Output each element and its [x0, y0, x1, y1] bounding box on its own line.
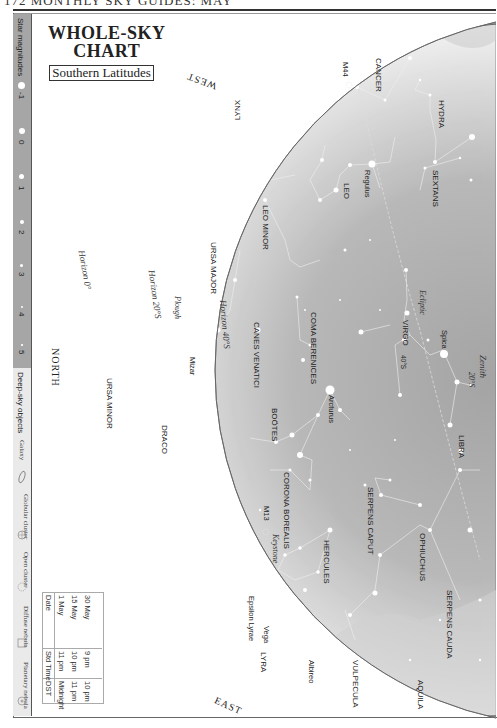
table-header-date: Date [44, 595, 53, 611]
magnitude-4-dot-icon [21, 306, 23, 308]
table-cell-dst: 11 pm [70, 681, 79, 701]
constellation-serpens-cauda: SERPENS CAUDA [436, 590, 454, 658]
chart-subtitle: Southern Latitudes [49, 65, 154, 81]
star-albireo: Albireo [307, 660, 316, 683]
star-spica: Spica [440, 330, 449, 349]
constellation-libra: LIBRA [457, 435, 466, 458]
constellation-leo-minor: LEO MINOR [252, 205, 270, 250]
magnitude-5-dot-icon [21, 344, 23, 346]
table-cell-std: 11 pm [57, 651, 66, 671]
constellation-vulpecula: VULPECULA [351, 660, 360, 708]
magnitude-3-dot-icon [20, 264, 23, 267]
table-cell-dst: Midnight [57, 681, 66, 709]
table-header-dst: DST [44, 681, 53, 696]
latitude-marker-label: 40°S [399, 355, 408, 369]
constellation-coma-berenices: COMA BERENICES [300, 312, 318, 384]
asterism-keystone: Keystone [271, 534, 280, 563]
constellation-canes-venatici: CANES VENATICI [243, 322, 261, 388]
star-epsilon-lyrae: Epsilon Lyrae [238, 596, 256, 641]
table-cell-std: 10 pm [70, 651, 79, 672]
magnitude-0-dot-icon [19, 128, 25, 134]
constellation-cancer: CANCER [374, 58, 383, 92]
magnitude-2-dot-icon [20, 220, 24, 224]
zenith-label: Zenith [478, 355, 487, 378]
table-cell-dst: 10 pm [83, 681, 92, 702]
table-cell-date: 15 May [70, 595, 79, 620]
table-cell-date: 1 May [57, 595, 66, 615]
magnitude-label: -1 [17, 92, 26, 99]
globular-cluster-icon [17, 530, 27, 540]
constellation-serpens-caput: SERPENS CAPUT [357, 487, 375, 555]
diffuse-nebula-square-icon [17, 638, 27, 648]
magnitude-minus1-dot-icon [18, 82, 25, 89]
magnitude-label: 1 [17, 186, 26, 190]
constellation-ursa-minor: URSA MINOR [96, 378, 114, 429]
constellation-lynx: LYNX [233, 100, 242, 120]
constellation-lyra: LYRA [259, 652, 268, 672]
table-cell-std: 9 pm [83, 651, 92, 668]
planetary-nebula-icon [17, 696, 27, 706]
asterism-plough: Plough [173, 296, 182, 319]
magnitude-label: 2 [17, 230, 26, 234]
constellation-ursa-major: URSA MAJOR [200, 242, 218, 294]
constellation-leo: LEO [342, 183, 351, 199]
star-magnitudes-legend: Star magnitudes -1 0 1 2 3 4 5 [13, 14, 32, 368]
table-header-std-time: Std Time [44, 651, 53, 681]
star-magnitudes-title: Star magnitudes [16, 18, 25, 76]
magnitude-label: 0 [17, 140, 26, 144]
open-cluster-icon [17, 582, 27, 592]
direction-north: NORTH [50, 348, 61, 387]
star-vega: Vega [262, 626, 271, 643]
deep-sky-objects-legend: Deep-sky objects Galaxy Globular cluster… [13, 368, 32, 716]
star-regulus: Regulus [363, 170, 372, 198]
star-arcturus: Arcturus [327, 395, 336, 423]
constellation-hercules: HERCULES [322, 540, 331, 584]
constellation-ophiuchus: OPHIUCHUS [418, 533, 427, 581]
m44-open-cluster-marker [346, 82, 352, 88]
viewing-times-table: Date Std Time DST 1 May 11 pm Midnight 1… [42, 592, 102, 702]
legend-sidebar: Star magnitudes -1 0 1 2 3 4 5 Deep-sky … [13, 14, 31, 716]
magnitude-label: 4 [17, 312, 26, 316]
deep-sky-label-galaxy: Galaxy [18, 440, 25, 460]
constellation-virgo: VIRGO [401, 320, 410, 346]
table-cell-date: 30 May [83, 595, 92, 620]
chart-title-line2: CHART [48, 42, 166, 60]
zenith-latitude: 20°S [467, 372, 476, 387]
chart-title-line1: WHOLE-SKY [48, 24, 166, 42]
chart-title: WHOLE-SKY CHART [48, 24, 166, 60]
constellation-hydra: HYDRA [437, 100, 446, 128]
constellation-bootes: BOÖTES [270, 408, 279, 441]
deep-sky-title: Deep-sky objects [16, 372, 25, 433]
magnitude-label: 3 [17, 272, 26, 276]
magnitude-label: 5 [17, 350, 26, 354]
magnitude-1-dot-icon [19, 174, 24, 179]
object-m13: M13 [262, 506, 271, 521]
galaxy-ellipse-icon [17, 470, 27, 484]
ecliptic-label: Ecliptic [418, 290, 427, 315]
constellation-aquila: AQUILA [416, 680, 425, 709]
constellation-draco: DRACO [160, 425, 169, 454]
star-mizar: Mizar [188, 357, 197, 375]
constellation-sextans: SEXTANS [431, 170, 440, 207]
object-m44: M44 [341, 62, 350, 77]
